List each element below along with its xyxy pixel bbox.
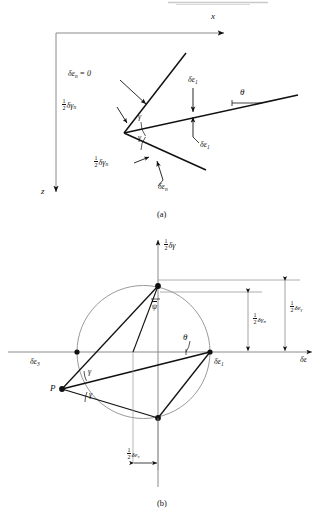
chord-p-to-top bbox=[62, 286, 158, 389]
figure-root: x z δεn = 0 12δγn γ γ δε1 δε1 θ 12δγn δε… bbox=[0, 0, 334, 516]
figure-canvas bbox=[0, 0, 334, 516]
psi-bar-label: ψ bbox=[152, 301, 157, 311]
dim-half-dgamma-n-label: 12δγn bbox=[253, 312, 266, 325]
panel-a-diagram bbox=[56, 33, 298, 192]
chord-p-to-eps1 bbox=[62, 352, 210, 389]
panel-b-caption: (b) bbox=[157, 498, 167, 508]
dim-half-deps-gamma-subscript: γ bbox=[301, 307, 303, 312]
psi-bar-symbol: ψ bbox=[152, 301, 157, 311]
zero-extension-leader bbox=[120, 80, 146, 104]
dgamma-axis-label: 12δγ bbox=[164, 238, 175, 251]
gamma-lower-label-b: γ bbox=[89, 391, 92, 399]
point-eps1 bbox=[207, 349, 212, 354]
eps1-lower-subscript: 1 bbox=[207, 144, 210, 150]
deps-axis-label: δε bbox=[300, 356, 307, 364]
gamma-arc-lower bbox=[141, 137, 146, 150]
eps1-lower-symbol: δε bbox=[200, 140, 207, 149]
half-gamma-n-lower-arrow bbox=[134, 157, 149, 163]
eps-n-lower-arrow bbox=[157, 161, 163, 180]
eps1-upper-subscript: 1 bbox=[195, 79, 198, 85]
chord-eps1-to-bottom bbox=[158, 352, 210, 418]
theta-arc bbox=[186, 341, 190, 352]
half-gamma-n-lower-subscript: n bbox=[105, 161, 108, 167]
eps1-upper-symbol: δε bbox=[188, 75, 195, 84]
point-p bbox=[59, 386, 65, 392]
dgamma-axis-symbol: δγ bbox=[169, 241, 176, 250]
gamma-lower-label-a: γ bbox=[138, 134, 141, 142]
zero-extension-symbol: δε bbox=[68, 69, 75, 78]
fraction-one-half: 12 bbox=[164, 238, 168, 251]
eps1-label-b: δε1 bbox=[214, 358, 224, 367]
point-p-label: P bbox=[50, 384, 56, 393]
dim-half-deps-gamma-label: 12δεγ bbox=[290, 300, 302, 313]
gamma-upper-label-b: γ bbox=[88, 368, 91, 376]
panel-a-caption: (a) bbox=[157, 209, 166, 219]
point-eps3 bbox=[74, 349, 79, 354]
zero-extension-equals: = 0 bbox=[78, 69, 91, 78]
eps-n-lower-symbol: δε bbox=[158, 182, 165, 191]
dim-half-deps-v-subscript: v bbox=[138, 454, 140, 459]
zero-extension-ray-lower bbox=[124, 133, 206, 170]
half-gamma-n-upper-subscript: n bbox=[73, 104, 76, 110]
panel-b-diagram bbox=[8, 240, 312, 487]
fraction-one-half: 12 bbox=[127, 447, 131, 460]
theta-label-a: θ bbox=[240, 88, 244, 97]
eps1-lower-label: δε1 bbox=[200, 141, 210, 150]
eps3-symbol: δε bbox=[30, 357, 37, 366]
z-axis-label: z bbox=[41, 187, 45, 196]
eps1-symbol-b: δε bbox=[214, 357, 221, 366]
eps1-subscript-b: 1 bbox=[221, 361, 224, 367]
point-top bbox=[155, 283, 161, 289]
half-gamma-n-upper-label: 12δγn bbox=[62, 98, 76, 111]
x-axis-label: x bbox=[211, 12, 215, 21]
fraction-one-half: 12 bbox=[94, 155, 98, 168]
fraction-one-half: 12 bbox=[62, 98, 66, 111]
gamma-arc-upper-b bbox=[84, 371, 87, 381]
scan-artifact bbox=[168, 3, 268, 5]
chord-top-to-foot bbox=[133, 286, 158, 352]
eps1-upper-label: δε1 bbox=[188, 76, 198, 85]
eps-n-lower-label: δεn bbox=[158, 183, 168, 192]
principal-ray-right bbox=[124, 95, 298, 133]
half-gamma-n-lower-label: 12δγn bbox=[94, 155, 108, 168]
zero-extension-label: δεn = 0 bbox=[68, 70, 91, 79]
dim-half-dgamma-n-subscript: n bbox=[264, 319, 266, 324]
eps1-lower-leader bbox=[193, 137, 199, 143]
fraction-one-half: 12 bbox=[290, 300, 294, 313]
eps3-subscript: 3 bbox=[37, 361, 40, 367]
gamma-upper-label-a: γ bbox=[138, 113, 141, 121]
half-gamma-n-upper-arrow bbox=[117, 107, 127, 123]
eps-n-lower-subscript: n bbox=[165, 186, 168, 192]
fraction-one-half: 12 bbox=[253, 312, 257, 325]
dim-half-deps-v-label: 12δεv bbox=[127, 447, 140, 460]
theta-label-b: θ bbox=[183, 333, 187, 342]
chord-p-to-bottom bbox=[62, 389, 158, 418]
eps3-label: δε3 bbox=[30, 358, 40, 367]
